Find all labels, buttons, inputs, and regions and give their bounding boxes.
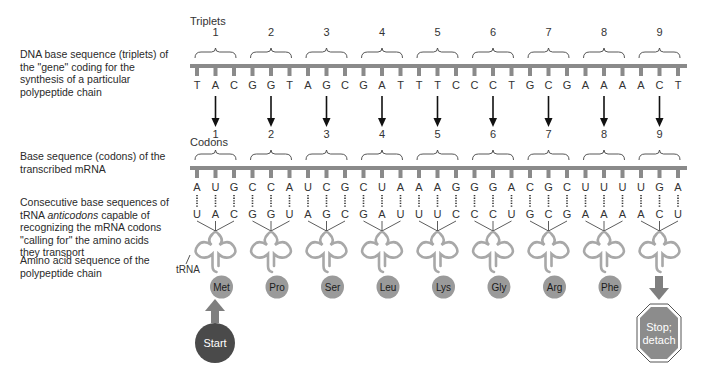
amino-acid-label: Pro <box>269 282 285 293</box>
start-marker: Start <box>195 299 235 363</box>
dna-base: G <box>359 79 368 91</box>
trna-cloverleaf-icon <box>418 232 458 272</box>
amino-acid-label: Lys <box>436 282 451 293</box>
dna-base-tick <box>584 66 588 76</box>
dna-base: G <box>563 79 572 91</box>
codon-number: 5 <box>434 128 440 140</box>
amino-acid-label: Arg <box>547 282 563 293</box>
anticodon-connector <box>327 221 346 231</box>
codon-bracket <box>584 150 625 160</box>
mrna-base: C <box>249 181 257 193</box>
dna-base: A <box>600 79 608 91</box>
dna-base: C <box>545 79 553 91</box>
anticodon-base: C <box>489 208 497 220</box>
dna-base: A <box>582 79 590 91</box>
codon-number: 8 <box>601 128 607 140</box>
mrna-base: C <box>360 181 368 193</box>
dna-base: T <box>675 79 682 91</box>
arrow-down-icon <box>489 118 497 127</box>
mrna-base: A <box>508 181 516 193</box>
start-label: Start <box>203 337 226 349</box>
codon-number: 1 <box>212 128 218 140</box>
anticodon-base: G <box>359 208 368 220</box>
anticodon-connector <box>586 221 605 231</box>
codon-bracket <box>473 150 514 160</box>
mrna-base: U <box>600 181 608 193</box>
anticodon-base: G <box>322 208 331 220</box>
anticodon-connector <box>660 221 679 231</box>
mrna-base-tick <box>491 168 495 178</box>
anticodon-connector <box>475 221 494 231</box>
triplet-bracket <box>251 48 292 58</box>
mrna-base-tick <box>214 168 218 178</box>
mrna-base-tick <box>658 168 662 178</box>
anticodon-connector <box>364 221 383 231</box>
mrna-base: U <box>304 181 312 193</box>
codon-bracket <box>306 150 347 160</box>
mrna-base: U <box>212 181 220 193</box>
anticodon-connector <box>438 221 457 231</box>
dna-base-tick <box>565 66 569 76</box>
triplet-number: 5 <box>434 26 440 38</box>
anticodon-base: A <box>378 208 386 220</box>
mrna-base: U <box>378 181 386 193</box>
mrna-base: A <box>415 181 423 193</box>
anticodon-connector <box>271 221 290 231</box>
mrna-base: G <box>452 181 461 193</box>
triplet-bracket <box>528 48 569 58</box>
anticodon-base: G <box>267 208 276 220</box>
anticodon-base: G <box>526 208 535 220</box>
triplet-number: 6 <box>490 26 496 38</box>
dna-base-tick <box>602 66 606 76</box>
mrna-base: C <box>267 181 275 193</box>
anticodon-connector <box>549 221 568 231</box>
codon-bracket <box>528 150 569 160</box>
dna-base-tick <box>621 66 625 76</box>
mrna-base-tick <box>417 168 421 178</box>
dna-base-tick <box>380 66 384 76</box>
arrow-down-icon <box>545 118 553 127</box>
codon-bracket <box>417 150 458 160</box>
mrna-base-tick <box>251 168 255 178</box>
trna-cloverleaf-icon <box>251 232 291 272</box>
arrow-down-icon <box>656 118 664 127</box>
anticodon-base: U <box>415 208 423 220</box>
mrna-base: A <box>397 181 405 193</box>
anticodon-base: U <box>508 208 516 220</box>
anticodon-base: C <box>230 208 238 220</box>
amino-acid-label: Ser <box>325 282 341 293</box>
anticodon-base: U <box>674 208 682 220</box>
trna-cloverleaf-icon <box>640 232 680 272</box>
trna-cloverleaf-icon <box>362 232 402 272</box>
dna-base: T <box>508 79 515 91</box>
dna-base-tick <box>288 66 292 76</box>
codon-number: 4 <box>379 128 385 140</box>
dna-base-tick <box>343 66 347 76</box>
anticodon-base: A <box>212 208 220 220</box>
mrna-base: C <box>323 181 331 193</box>
dna-base-tick <box>547 66 551 76</box>
mrna-base-tick <box>306 168 310 178</box>
amino-acid-label: Phe <box>601 282 619 293</box>
dna-base: G <box>526 79 535 91</box>
triplet-number: 4 <box>379 26 385 38</box>
dna-base-tick <box>232 66 236 76</box>
triplet-number: 1 <box>212 26 218 38</box>
mrna-base-tick <box>473 168 477 178</box>
dna-base-tick <box>676 66 680 76</box>
codon-number: 7 <box>545 128 551 140</box>
arrow-down-icon <box>267 118 275 127</box>
dna-base-tick <box>306 66 310 76</box>
mrna-base-tick <box>547 168 551 178</box>
codon-number: 2 <box>268 128 274 140</box>
arrow-down-icon <box>600 118 608 127</box>
start-arrow-shaft <box>211 310 219 323</box>
anticodon-connector <box>197 221 216 231</box>
dna-base: T <box>194 79 201 91</box>
trna-cloverleaf-icon <box>307 232 347 272</box>
trna-cloverleaf-icon <box>529 232 569 272</box>
anticodon-base: U <box>434 208 442 220</box>
dna-base: T <box>416 79 423 91</box>
mrna-base-tick <box>269 168 273 178</box>
dna-base-tick <box>510 66 514 76</box>
